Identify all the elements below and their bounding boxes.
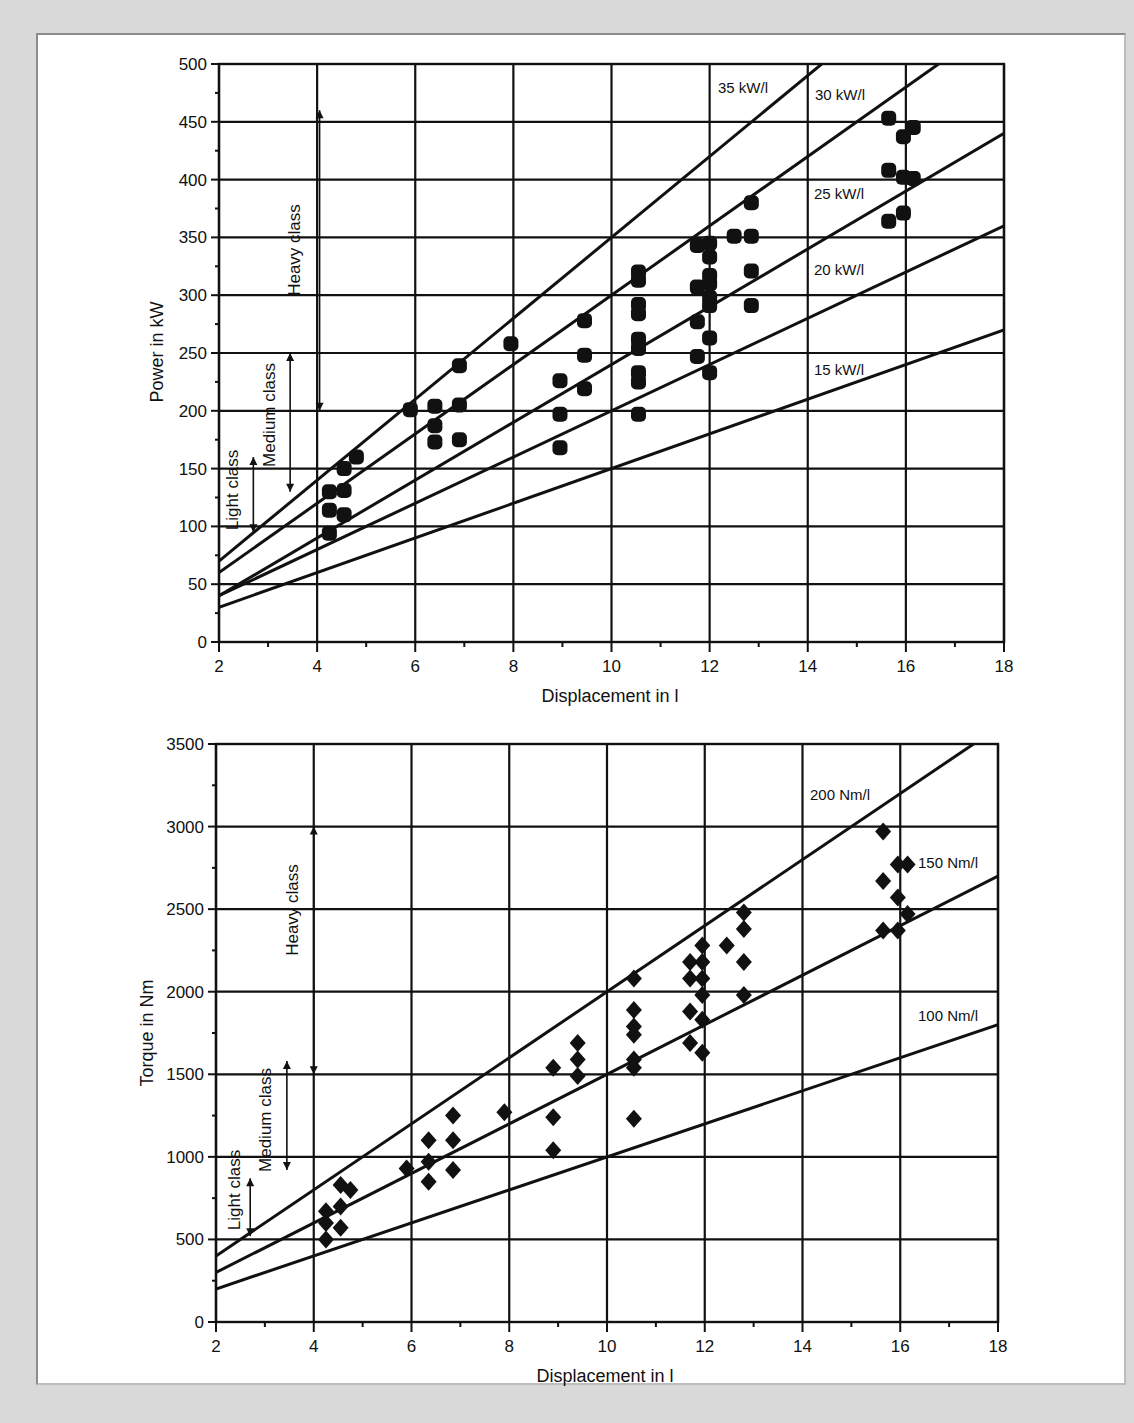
x-tick-label: 16 [896, 657, 915, 676]
data-point-circle [702, 276, 717, 291]
data-point-diamond [719, 936, 735, 954]
data-point-circle [427, 435, 442, 450]
reference-line-label: 15 kW/l [814, 361, 864, 378]
x-tick-label: 4 [312, 657, 321, 676]
x-tick-label: 10 [598, 1337, 617, 1356]
torque-chart: 200 Nm/l150 Nm/l100 Nm/l Light classMedi… [137, 727, 1007, 1386]
data-point-circle [322, 503, 337, 518]
torque-x-axis-title: Displacement in l [536, 1366, 673, 1386]
x-tick-label: 12 [700, 657, 719, 676]
data-point-diamond [875, 872, 891, 890]
data-point-diamond [900, 856, 916, 874]
y-tick-label: 350 [179, 228, 207, 247]
data-point-circle [881, 214, 896, 229]
y-tick-label: 1500 [166, 1065, 204, 1084]
power-axes: 2468101214161805010015020025030035040045… [179, 55, 1014, 676]
data-point-circle [503, 336, 518, 351]
class-range-label: Medium class [260, 363, 279, 467]
data-point-diamond [694, 953, 710, 971]
arrow-up-icon [246, 1178, 254, 1186]
y-tick-label: 500 [176, 1230, 204, 1249]
reference-line-label: 30 kW/l [815, 86, 865, 103]
data-point-circle [322, 484, 337, 499]
data-point-circle [427, 399, 442, 414]
power-data-points [322, 111, 921, 541]
x-tick-label: 8 [505, 1337, 514, 1356]
data-point-circle [881, 163, 896, 178]
data-point-circle [744, 229, 759, 244]
data-point-circle [452, 432, 467, 447]
data-point-circle [727, 229, 742, 244]
data-point-diamond [570, 1034, 586, 1052]
data-point-diamond [736, 903, 752, 921]
data-point-circle [744, 263, 759, 278]
y-tick-label: 450 [179, 113, 207, 132]
data-point-circle [349, 450, 364, 465]
data-point-diamond [694, 1011, 710, 1029]
x-tick-label: 12 [695, 1337, 714, 1356]
class-range-label: Heavy class [285, 204, 304, 296]
y-tick-label: 0 [195, 1313, 204, 1332]
data-point-circle [906, 171, 921, 186]
data-point-circle [452, 358, 467, 373]
y-tick-label: 3000 [166, 818, 204, 837]
x-tick-label: 4 [309, 1337, 318, 1356]
y-tick-label: 200 [179, 402, 207, 421]
class-range-label: Light class [223, 450, 242, 530]
y-tick-label: 2500 [166, 900, 204, 919]
arrow-up-icon [249, 457, 257, 465]
y-tick-label: 150 [179, 460, 207, 479]
data-point-diamond [545, 1108, 561, 1126]
x-tick-label: 2 [214, 657, 223, 676]
x-tick-label: 14 [793, 1337, 812, 1356]
x-tick-label: 2 [211, 1337, 220, 1356]
data-point-diamond [318, 1214, 334, 1232]
data-point-diamond [694, 970, 710, 988]
data-point-circle [337, 507, 352, 522]
class-range-label: Light class [225, 1150, 244, 1230]
data-point-circle [702, 330, 717, 345]
power-y-axis-title: Power in kW [147, 301, 167, 402]
y-tick-label: 250 [179, 344, 207, 363]
data-point-circle [577, 348, 592, 363]
power-grid [219, 64, 1004, 642]
data-point-circle [631, 306, 646, 321]
data-point-circle [552, 373, 567, 388]
torque-y-axis-title: Torque in Nm [137, 979, 157, 1086]
x-tick-label: 10 [602, 657, 621, 676]
class-range-label: Medium class [256, 1068, 275, 1172]
data-point-circle [552, 407, 567, 422]
data-point-circle [631, 407, 646, 422]
y-tick-label: 2000 [166, 983, 204, 1002]
data-point-diamond [736, 920, 752, 938]
data-point-circle [552, 440, 567, 455]
data-point-circle [337, 461, 352, 476]
data-point-circle [702, 365, 717, 380]
data-point-circle [906, 120, 921, 135]
torque-data-points [318, 823, 916, 1249]
reference-line-label: 35 kW/l [718, 79, 768, 96]
data-point-circle [690, 314, 705, 329]
power-chart: 35 kW/l30 kW/l25 kW/l20 kW/l15 kW/l Ligh… [147, 0, 1013, 706]
reference-line-label: 20 kW/l [814, 261, 864, 278]
reference-line-label: 150 Nm/l [918, 854, 978, 871]
arrow-up-icon [286, 353, 294, 361]
data-point-diamond [421, 1131, 437, 1149]
data-point-circle [702, 236, 717, 251]
data-point-diamond [626, 970, 642, 988]
data-point-diamond [626, 1110, 642, 1128]
data-point-circle [631, 273, 646, 288]
data-point-diamond [694, 1044, 710, 1062]
data-point-circle [744, 195, 759, 210]
data-point-diamond [682, 1003, 698, 1021]
y-tick-label: 1000 [166, 1148, 204, 1167]
data-point-circle [427, 418, 442, 433]
data-point-diamond [445, 1131, 461, 1149]
data-point-circle [577, 381, 592, 396]
data-point-circle [322, 526, 337, 541]
data-point-circle [631, 341, 646, 356]
x-tick-label: 8 [509, 657, 518, 676]
arrow-down-icon [286, 484, 294, 492]
data-point-diamond [570, 1050, 586, 1068]
x-tick-label: 14 [798, 657, 817, 676]
